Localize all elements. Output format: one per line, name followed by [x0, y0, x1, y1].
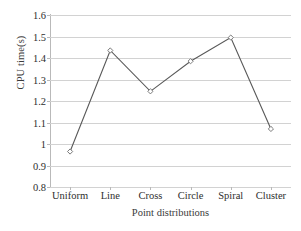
data-point-marker — [268, 126, 273, 131]
series-polyline — [70, 38, 271, 152]
x-tick-label: Line — [101, 190, 120, 201]
x-tick-label: Circle — [178, 190, 204, 201]
y-tick-mark — [47, 101, 50, 102]
y-axis-tick-labels: 1.61.51.41.31.21.110.90.8 — [0, 0, 46, 231]
y-tick-label: 1.5 — [2, 31, 46, 42]
y-tick-label: 1.6 — [2, 10, 46, 21]
x-tick-mark — [271, 187, 272, 190]
series-markers — [67, 35, 273, 154]
data-point-marker — [228, 35, 233, 40]
x-tick-mark — [150, 187, 151, 190]
plot-area — [50, 15, 291, 187]
x-tick-label: Cluster — [256, 190, 286, 201]
y-tick-label: 1.3 — [2, 74, 46, 85]
x-tick-label: Cross — [138, 190, 162, 201]
x-tick-mark — [70, 187, 71, 190]
y-tick-mark — [47, 37, 50, 38]
y-tick-mark — [47, 144, 50, 145]
y-tick-label: 0.9 — [2, 160, 46, 171]
x-tick-mark — [191, 187, 192, 190]
y-tick-label: 1.2 — [2, 96, 46, 107]
y-tick-mark — [47, 80, 50, 81]
y-tick-mark — [47, 166, 50, 167]
x-tick-mark — [231, 187, 232, 190]
y-tick-label: 1.1 — [2, 117, 46, 128]
series-line-cpu-time — [50, 15, 291, 187]
data-point-marker — [67, 149, 72, 154]
y-tick-mark — [47, 58, 50, 59]
x-tick-label: Uniform — [52, 190, 88, 201]
gridline — [50, 187, 291, 188]
x-tick-label: Spiral — [218, 190, 243, 201]
y-tick-mark — [47, 15, 50, 16]
y-tick-label: 1 — [2, 139, 46, 150]
x-tick-mark — [110, 187, 111, 190]
cpu-time-line-chart: CPU time(s) 1.61.51.41.31.21.110.90.8 Un… — [0, 0, 301, 231]
y-tick-label: 1.4 — [2, 53, 46, 64]
x-axis-title: Point distributions — [50, 207, 291, 218]
y-tick-label: 0.8 — [2, 182, 46, 193]
y-tick-mark — [47, 123, 50, 124]
y-tick-mark — [47, 187, 50, 188]
x-axis-tick-labels: UniformLineCrossCircleSpiralCluster — [50, 190, 291, 206]
